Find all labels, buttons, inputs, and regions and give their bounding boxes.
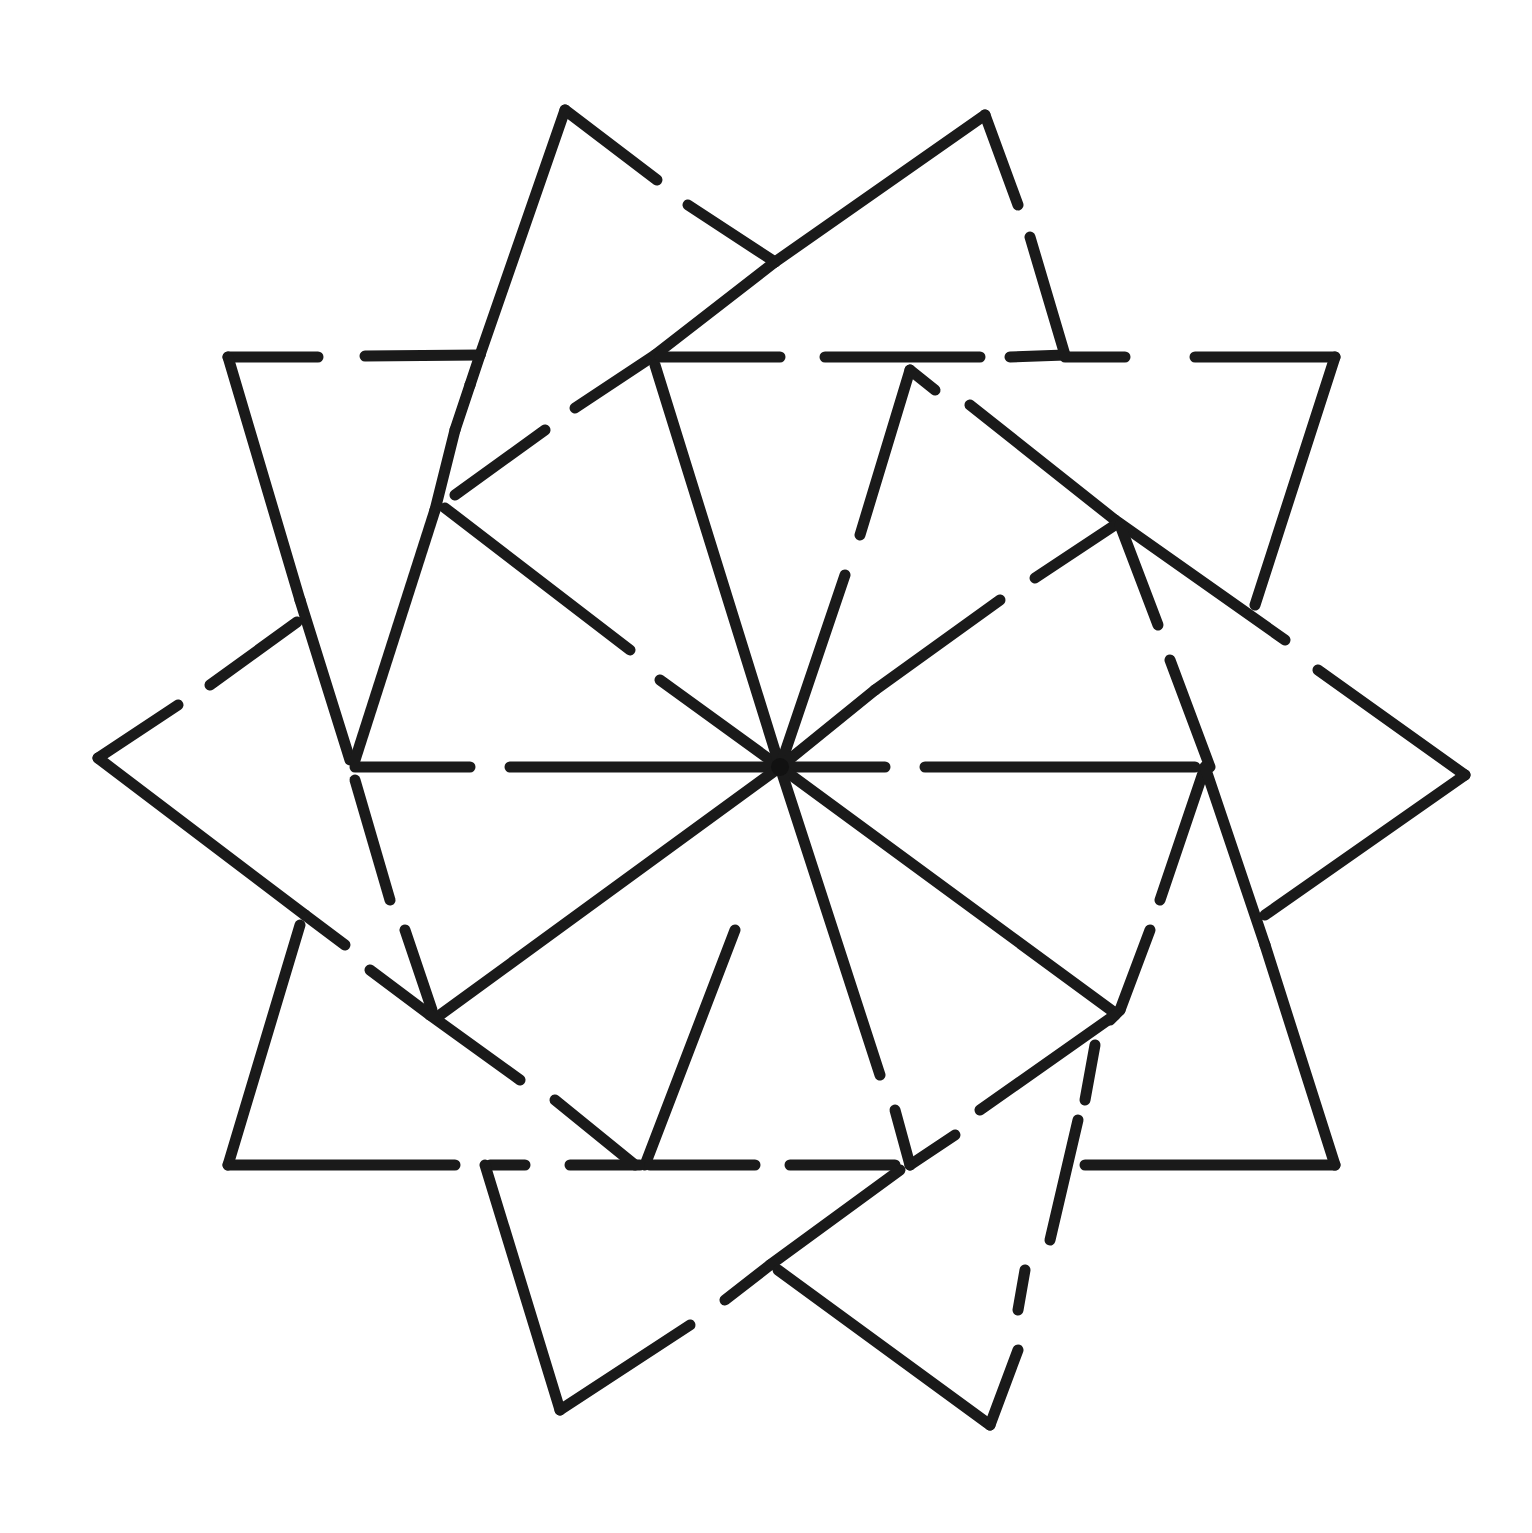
line-segment xyxy=(725,1265,770,1300)
line-segment xyxy=(1018,1270,1025,1310)
line-segment xyxy=(1255,357,1335,605)
line-segment xyxy=(970,405,1115,520)
line-segment xyxy=(365,355,480,356)
line-segment xyxy=(1050,1120,1078,1240)
line-segment xyxy=(1265,775,1465,915)
line-segment xyxy=(780,767,1115,1013)
line-segment xyxy=(210,622,297,685)
line-segment xyxy=(1010,355,1065,357)
line-segment xyxy=(98,758,305,915)
line-segment xyxy=(445,508,630,650)
line-segment xyxy=(875,600,1000,690)
line-segment xyxy=(300,600,350,760)
line-segment xyxy=(645,930,735,1165)
line-segment xyxy=(228,357,300,600)
line-segment xyxy=(555,1100,635,1165)
line-segment xyxy=(455,430,545,495)
line-segment xyxy=(355,510,435,760)
line-segment xyxy=(1205,767,1265,945)
line-segment xyxy=(655,262,775,355)
line-segment xyxy=(1085,1045,1095,1100)
line-segment xyxy=(480,110,565,355)
line-segment xyxy=(1265,945,1335,1165)
line-segment xyxy=(1120,930,1150,1010)
line-segment xyxy=(228,925,300,1165)
line-segment xyxy=(1030,237,1065,355)
line-segment xyxy=(775,115,985,262)
line-segment xyxy=(688,205,775,262)
line-segment xyxy=(575,355,655,408)
line-segment xyxy=(98,705,178,758)
line-segment xyxy=(780,767,880,1075)
line-segment xyxy=(560,1325,690,1410)
line-segment xyxy=(565,110,657,180)
line-segment xyxy=(860,370,910,535)
line-segment xyxy=(455,385,470,430)
line-segment xyxy=(1160,767,1205,900)
line-segment xyxy=(990,1350,1018,1425)
line-segment xyxy=(770,1170,900,1265)
line-segment xyxy=(430,1015,520,1080)
line-segment xyxy=(355,780,390,900)
line-segment xyxy=(910,1135,955,1165)
line-segment xyxy=(305,915,345,945)
line-segment xyxy=(440,767,780,1015)
center-hub xyxy=(771,758,789,776)
line-segment xyxy=(655,365,780,767)
line-segment xyxy=(1318,670,1465,775)
line-segment xyxy=(778,1270,990,1425)
star-diagram xyxy=(0,0,1532,1533)
line-segment xyxy=(1170,660,1210,767)
line-segment xyxy=(895,1110,910,1165)
line-segment xyxy=(985,115,1018,205)
line-segment xyxy=(1035,525,1115,578)
line-segment xyxy=(485,1165,560,1410)
line-segment xyxy=(910,370,935,390)
